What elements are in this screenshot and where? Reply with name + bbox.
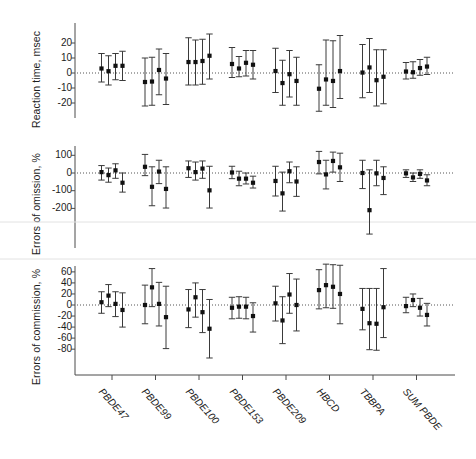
estimate-marker <box>150 79 154 83</box>
estimate-marker <box>280 318 284 322</box>
estimate-marker <box>113 302 117 306</box>
estimate-marker <box>425 64 429 68</box>
estimate-marker <box>106 173 110 177</box>
estimate-marker <box>374 78 378 82</box>
data-point-SUM PBDE-2 <box>410 62 416 79</box>
estimate-marker <box>331 79 335 83</box>
estimate-marker <box>280 191 284 195</box>
estimate-marker <box>193 170 197 174</box>
data-point-PBDE209-1 <box>272 166 278 196</box>
data-point-PBDE47-2 <box>105 56 111 85</box>
estimate-marker <box>294 79 298 83</box>
estimate-marker <box>164 76 168 80</box>
estimate-marker <box>404 69 408 73</box>
data-point-HBCD-3 <box>330 265 336 309</box>
data-point-PBDE100-1 <box>185 290 191 328</box>
data-point-PBDE100-2 <box>192 283 198 317</box>
estimate-marker <box>186 60 190 64</box>
estimate-marker <box>200 166 204 170</box>
estimate-marker <box>338 165 342 169</box>
estimate-marker <box>324 172 328 176</box>
data-point-PBDE99-4 <box>163 167 169 208</box>
estimate-marker <box>381 176 385 180</box>
estimate-marker <box>207 188 211 192</box>
data-point-PBDE100-2 <box>192 40 198 85</box>
estimate-marker <box>360 307 364 311</box>
estimate-marker <box>193 295 197 299</box>
estimate-marker <box>425 178 429 182</box>
estimate-marker <box>294 303 298 307</box>
data-point-TBBPA-1 <box>359 45 365 98</box>
data-point-PBDE47-1 <box>98 166 104 181</box>
data-point-PBDE209-4 <box>293 279 299 331</box>
data-point-PBDE99-1 <box>142 58 148 106</box>
data-point-PBDE209-3 <box>286 51 292 98</box>
estimate-marker <box>338 69 342 73</box>
estimate-marker <box>157 68 161 72</box>
data-point-PBDE100-3 <box>199 290 205 333</box>
data-point-PBDE209-3 <box>286 274 292 314</box>
estimate-marker <box>331 159 335 163</box>
data-point-PBDE99-3 <box>156 282 162 326</box>
data-point-PBDE99-4 <box>163 286 169 348</box>
estimate-marker <box>251 314 255 318</box>
estimate-marker <box>287 169 291 173</box>
estimate-marker <box>287 72 291 76</box>
data-point-PBDE209-1 <box>272 48 278 92</box>
estimate-marker <box>418 66 422 70</box>
data-point-PBDE47-3 <box>112 292 118 317</box>
estimate-marker <box>404 171 408 175</box>
data-point-SUM PBDE-4 <box>424 303 430 326</box>
data-point-PBDE153-1 <box>229 48 235 78</box>
data-point-PBDE153-4 <box>250 51 256 80</box>
data-point-PBDE47-1 <box>98 292 104 314</box>
estimate-marker <box>418 306 422 310</box>
estimate-marker <box>367 321 371 325</box>
estimate-marker <box>280 81 284 85</box>
data-point-TBBPA-2 <box>366 39 372 93</box>
estimate-marker <box>99 300 103 304</box>
data-point-TBBPA-4 <box>380 50 386 104</box>
data-point-PBDE209-1 <box>272 286 278 321</box>
estimate-marker <box>186 307 190 311</box>
estimate-marker <box>230 62 234 66</box>
data-point-SUM PBDE-1 <box>403 170 409 178</box>
estimate-marker <box>374 322 378 326</box>
data-point-PBDE47-3 <box>112 164 118 179</box>
data-point-PBDE209-4 <box>293 167 299 197</box>
estimate-marker <box>237 305 241 309</box>
data-point-PBDE47-4 <box>119 173 125 192</box>
data-point-PBDE100-3 <box>199 161 205 178</box>
estimate-marker <box>157 169 161 173</box>
data-point-PBDE209-2 <box>279 172 285 211</box>
data-point-PBDE99-1 <box>142 285 148 324</box>
estimate-marker <box>338 292 342 296</box>
estimate-marker <box>381 75 385 79</box>
data-point-PBDE100-4 <box>206 299 212 358</box>
estimate-marker <box>186 166 190 170</box>
data-point-PBDE99-3 <box>156 49 162 95</box>
data-point-TBBPA-3 <box>373 288 379 350</box>
data-point-SUM PBDE-2 <box>410 173 416 181</box>
data-point-PBDE47-4 <box>119 293 125 327</box>
data-point-TBBPA-1 <box>359 288 365 329</box>
data-point-PBDE100-1 <box>185 161 191 177</box>
data-point-SUM PBDE-1 <box>403 297 409 312</box>
estimate-marker <box>120 308 124 312</box>
estimate-marker <box>99 66 103 70</box>
estimate-marker <box>324 283 328 287</box>
data-point-HBCD-2 <box>323 264 329 308</box>
estimate-marker <box>425 313 429 317</box>
estimate-marker <box>317 288 321 292</box>
estimate-marker <box>331 285 335 289</box>
data-point-PBDE100-4 <box>206 166 212 208</box>
estimate-marker <box>360 171 364 175</box>
data-point-PBDE99-3 <box>156 160 162 183</box>
data-point-HBCD-2 <box>323 160 329 189</box>
data-point-PBDE209-4 <box>293 57 299 105</box>
data-point-PBDE47-1 <box>98 54 104 83</box>
data-layer <box>98 34 430 358</box>
estimate-marker <box>207 327 211 331</box>
estimate-marker <box>411 298 415 302</box>
estimate-marker <box>207 54 211 58</box>
